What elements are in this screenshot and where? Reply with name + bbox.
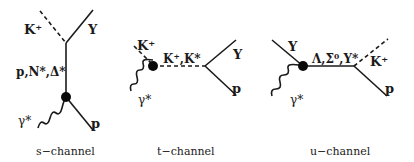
u-label-kaon: K⁺ bbox=[370, 54, 388, 69]
u-channel-caption: u−channel bbox=[310, 145, 371, 158]
t-vertex-dot bbox=[148, 61, 158, 71]
t-label-kaon: K⁺ bbox=[137, 38, 155, 53]
t-label-photon: γ* bbox=[138, 93, 151, 107]
s-label-proton: p bbox=[91, 116, 100, 131]
u-label-photon: γ* bbox=[290, 93, 303, 107]
t-hyperon-line bbox=[205, 40, 236, 66]
t-label-hyperon: Y bbox=[232, 47, 243, 62]
s-channel-caption: s−channel bbox=[36, 145, 95, 158]
s-channel-diagram: K⁺ Y p,N*,Δ* γ* p s−channel bbox=[16, 10, 100, 158]
s-kaon-line bbox=[40, 11, 66, 43]
u-channel-diagram: Y Λ,Σ⁰,Y* γ* K⁺ p u−channel bbox=[272, 39, 395, 158]
u-photon-line bbox=[272, 64, 300, 96]
feynman-diagrams: K⁺ Y p,N*,Δ* γ* p s−channel K⁺ K⁺,K* γ* … bbox=[0, 0, 414, 162]
s-photon-line bbox=[38, 97, 66, 128]
u-label-proton: p bbox=[385, 81, 394, 96]
s-label-hyperon: Y bbox=[87, 22, 98, 37]
t-channel-diagram: K⁺ K⁺,K* γ* Y p t−channel bbox=[130, 38, 243, 158]
t-label-intermediate: K⁺,K* bbox=[163, 52, 201, 66]
s-label-photon: γ* bbox=[18, 114, 31, 128]
s-proton-line bbox=[66, 97, 93, 130]
u-vertex-dot bbox=[298, 61, 308, 71]
s-label-intermediate: p,N*,Δ* bbox=[16, 65, 66, 79]
s-label-kaon: K⁺ bbox=[24, 22, 42, 37]
t-label-proton: p bbox=[232, 81, 241, 96]
u-label-hyperon: Y bbox=[287, 39, 298, 54]
s-vertex-dot bbox=[61, 92, 71, 102]
u-proton-line bbox=[354, 66, 387, 96]
u-label-intermediate: Λ,Σ⁰,Y* bbox=[311, 52, 359, 66]
t-channel-caption: t−channel bbox=[157, 145, 215, 158]
